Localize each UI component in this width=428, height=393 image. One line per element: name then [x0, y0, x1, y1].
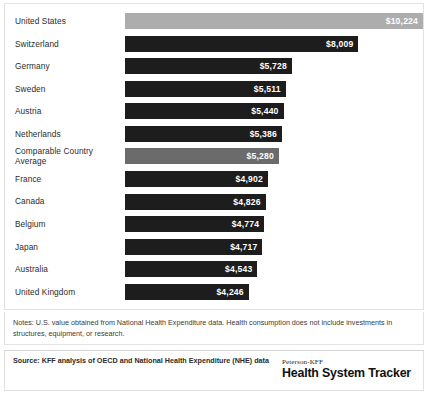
bar-value-label: $5,440 — [251, 106, 283, 116]
bar-category-label: Sweden — [15, 84, 123, 94]
bar-value-label: $5,728 — [260, 61, 292, 71]
bar-row: Germany$5,728 — [5, 55, 423, 78]
bar-track: $4,774 — [125, 213, 421, 236]
bar-row: Comparable Country Average$5,280 — [5, 145, 423, 168]
bar-value-label: $5,511 — [254, 84, 286, 94]
bar-row: Netherlands$5,386 — [5, 123, 423, 146]
bar-row: United Kingdom$4,246 — [5, 280, 423, 303]
bar-value-label: $8,009 — [326, 39, 358, 49]
bar-track: $4,246 — [125, 280, 421, 303]
bar-value-label: $10,224 — [386, 16, 423, 26]
bar-row: Australia$4,543 — [5, 258, 423, 281]
bar[interactable]: $8,009 — [125, 36, 358, 52]
bar[interactable]: $4,717 — [125, 239, 262, 255]
peterson-kff-logo: Peterson-KFF Health System Tracker — [282, 356, 415, 380]
bar-track: $10,224 — [125, 10, 421, 33]
bar-value-label: $5,386 — [250, 129, 282, 139]
bar-category-label: Switzerland — [15, 39, 123, 49]
bar-track: $4,826 — [125, 190, 421, 213]
bar-row: Switzerland$8,009 — [5, 33, 423, 56]
bar-category-label: Belgium — [15, 219, 123, 229]
bar-track: $5,386 — [125, 123, 421, 146]
bar-track: $4,902 — [125, 168, 421, 191]
bar-row: Canada$4,826 — [5, 190, 423, 213]
bar-track: $5,728 — [125, 55, 421, 78]
bar[interactable]: $5,728 — [125, 58, 292, 74]
bar[interactable]: $4,543 — [125, 261, 257, 277]
chart-notes-block: Notes: U.S. value obtained from National… — [4, 312, 424, 345]
bar-value-label: $4,246 — [216, 287, 248, 297]
chart-source-block: Source: KFF analysis of OECD and Nationa… — [4, 350, 424, 391]
bar[interactable]: $10,224 — [125, 13, 423, 29]
bar-category-label: Japan — [15, 242, 123, 252]
bar-track: $8,009 — [125, 33, 421, 56]
bar-value-label: $4,543 — [225, 264, 257, 274]
bar[interactable]: $4,246 — [125, 284, 249, 300]
bar-row: Belgium$4,774 — [5, 213, 423, 236]
bar[interactable]: $5,280 — [125, 148, 279, 164]
bar-value-label: $4,902 — [236, 174, 268, 184]
bar-chart-plot-area: United States$10,224Switzerland$8,009Ger… — [5, 4, 423, 309]
bar-value-label: $4,774 — [232, 219, 264, 229]
bar[interactable]: $5,440 — [125, 103, 284, 119]
bar-row: France$4,902 — [5, 168, 423, 191]
bar-value-label: $4,717 — [230, 242, 262, 252]
bar-category-label: Netherlands — [15, 129, 123, 139]
bar-category-label: Germany — [15, 61, 123, 71]
bar[interactable]: $5,511 — [125, 81, 286, 97]
bar-track: $5,280 — [125, 145, 421, 168]
bar-row: United States$10,224 — [5, 10, 423, 33]
bar-category-label: Comparable Country Average — [15, 146, 123, 166]
bar-category-label: Canada — [15, 196, 123, 206]
bar[interactable]: $4,826 — [125, 194, 266, 210]
chart-notes-text: Notes: U.S. value obtained from National… — [13, 318, 415, 339]
bar-value-label: $5,280 — [247, 151, 279, 161]
bar-track: $4,717 — [125, 235, 421, 258]
chart-panel: United States$10,224Switzerland$8,009Ger… — [4, 3, 424, 310]
logo-top-text: Peterson-KFF — [282, 358, 411, 366]
bar-row: Austria$5,440 — [5, 100, 423, 123]
bar-track: $4,543 — [125, 258, 421, 281]
bar-category-label: United Kingdom — [15, 287, 123, 297]
bar-value-label: $4,826 — [233, 197, 265, 207]
bar-category-label: United States — [15, 16, 123, 26]
bar-track: $5,511 — [125, 78, 421, 101]
bar[interactable]: $4,902 — [125, 171, 268, 187]
bar-category-label: France — [15, 174, 123, 184]
bar[interactable]: $5,386 — [125, 126, 282, 142]
bar-row: Sweden$5,511 — [5, 78, 423, 101]
chart-source-text: Source: KFF analysis of OECD and Nationa… — [13, 356, 269, 367]
bar-row: Japan$4,717 — [5, 235, 423, 258]
bar-track: $5,440 — [125, 100, 421, 123]
logo-main-text: Health System Tracker — [282, 367, 411, 380]
chart-figure: United States$10,224Switzerland$8,009Ger… — [0, 0, 428, 393]
bar[interactable]: $4,774 — [125, 216, 264, 232]
bar-category-label: Australia — [15, 264, 123, 274]
bar-category-label: Austria — [15, 106, 123, 116]
